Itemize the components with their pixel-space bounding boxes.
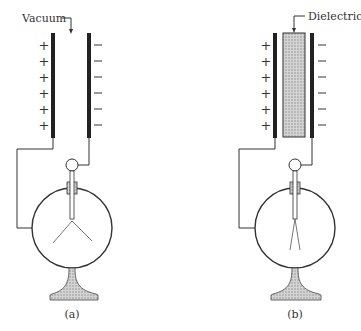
svg-text:+: + (261, 118, 272, 133)
caption-a: (a) (64, 308, 79, 321)
terminal-ball (66, 159, 78, 171)
positive-charges: + + + + + + (261, 38, 272, 133)
vacuum-arrow-head-icon (69, 29, 73, 34)
electroscope-rod (293, 171, 297, 219)
leaves-spread (53, 221, 92, 243)
svg-text:+: + (261, 38, 272, 53)
svg-text:+: + (261, 70, 272, 85)
panel-a: Vacuum + + + + + + (17, 12, 112, 321)
electroscope-stand (50, 268, 98, 300)
terminal-ball (289, 159, 301, 171)
vacuum-label: Vacuum (21, 12, 67, 25)
electroscope-stand (271, 268, 321, 300)
dielectric-arrow-line (294, 16, 305, 29)
svg-text:+: + (39, 86, 50, 101)
dielectric-arrow-head-icon (292, 28, 296, 33)
positive-plate (51, 33, 55, 138)
negative-plate (87, 33, 91, 138)
svg-text:+: + (39, 118, 50, 133)
svg-text:+: + (261, 86, 272, 101)
panel-b: Dielectric + + + + + + (239, 10, 361, 321)
negative-charges (318, 45, 326, 125)
svg-text:+: + (39, 102, 50, 117)
leaves-closed (290, 219, 300, 250)
svg-text:+: + (39, 38, 50, 53)
caption-b: (b) (287, 308, 303, 321)
wire-negative-to-terminal (78, 138, 89, 165)
wire-negative-to-terminal (301, 138, 312, 165)
svg-text:+: + (39, 54, 50, 69)
electroscope-rod (70, 171, 74, 219)
negative-charges (94, 45, 102, 125)
positive-plate (273, 33, 277, 138)
dielectric-slab (283, 33, 305, 137)
negative-plate (310, 33, 314, 138)
dielectric-label: Dielectric (308, 10, 361, 23)
electroscope-capacitor-diagram: Vacuum + + + + + + (0, 0, 361, 331)
svg-text:+: + (261, 54, 272, 69)
svg-text:+: + (261, 102, 272, 117)
svg-text:+: + (39, 70, 50, 85)
positive-charges: + + + + + + (39, 38, 50, 133)
